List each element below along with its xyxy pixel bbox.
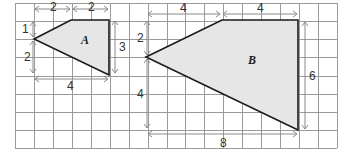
dim-b-left-upper: 2	[137, 31, 144, 45]
shape-b	[146, 20, 298, 130]
dim-b-bottom: 8	[220, 136, 227, 150]
dim-b-top-right: 4	[257, 1, 264, 15]
dim-a-top-left: 2	[50, 0, 57, 14]
dim-a-right: 3	[119, 40, 126, 54]
dim-b-top-left: 4	[180, 1, 187, 15]
dim-a-bottom: 4	[67, 79, 74, 93]
similar-shapes-diagram: A 2 2 1 2 3 4 B 4 4 2 4 6 8	[0, 0, 347, 165]
shape-b-label: B	[247, 53, 256, 67]
shape-a-label: A	[80, 33, 89, 47]
dim-a-left-upper: 1	[22, 22, 29, 36]
dim-b-right: 6	[309, 69, 316, 83]
dim-b-left-lower: 4	[137, 87, 144, 101]
dim-a-top-right: 2	[88, 0, 95, 14]
dim-a-left-lower: 2	[24, 50, 31, 64]
shape-a	[34, 20, 109, 75]
